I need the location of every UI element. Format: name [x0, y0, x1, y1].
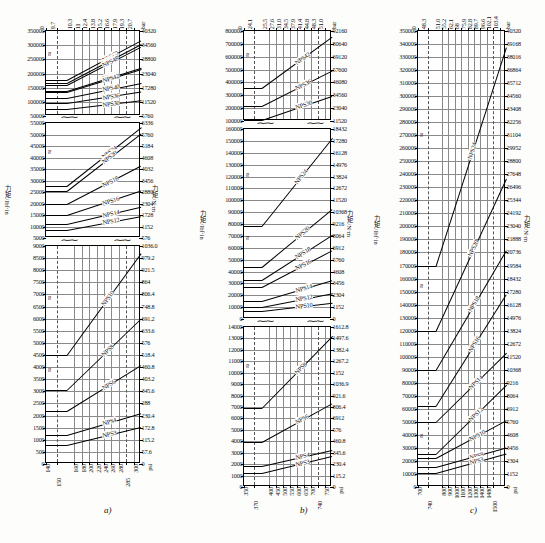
gridline-h: [46, 379, 139, 380]
y-tick-label: 110000: [225, 185, 242, 191]
gridline-v: [89, 246, 90, 462]
gridline-v: [119, 246, 120, 462]
y-tick-label: 600000: [225, 54, 242, 60]
y-tick-label: 5500: [33, 328, 45, 334]
y-tick-label: 25000: [30, 189, 44, 195]
x-tick-bottom-label: 700: [310, 487, 316, 496]
curve-flat-NPS20: [46, 191, 67, 192]
y2-tick-label: 80640: [333, 41, 347, 47]
curve-flat-NPS24: [418, 266, 436, 267]
y-tick-label: 3000: [231, 450, 243, 456]
y-tick-label: 230000: [399, 184, 416, 190]
x-tick-bottom-label: 450: [275, 487, 281, 496]
gridline-v: [428, 31, 429, 485]
x-tick-top-label: 19.3: [119, 19, 125, 29]
curve-flat-NPS14: [244, 301, 262, 302]
y2-tick-label: 13824: [507, 328, 521, 334]
gridline-h: [46, 282, 139, 283]
gridline-h: [244, 165, 330, 166]
curve-flat-NPS36: [46, 103, 67, 104]
x-tick-bottom-label: 1480: [486, 487, 492, 499]
gridline-h: [46, 258, 139, 259]
y-tick-label: 30000: [30, 177, 44, 183]
y-tick-label: 310000: [399, 80, 416, 86]
y-tick-label: 9000: [33, 243, 45, 249]
x-tick-top-label: 10.3: [67, 19, 73, 29]
y2-tick-label: 1382.4: [333, 347, 349, 353]
y2-tick-label: 0: [333, 316, 336, 322]
y-tick-label: 80000: [228, 221, 242, 227]
gridline-h: [244, 141, 330, 142]
curve-label-NPS10: NPS10: [100, 289, 116, 308]
gridline-v: [97, 31, 98, 114]
y-tick-label: 340000: [399, 41, 416, 47]
axis-break-mark: ≈: [45, 150, 53, 154]
curve-flat-NPS18: [244, 280, 262, 281]
y2-tick-label: 23040: [333, 105, 347, 111]
y-tick-label: 14000: [228, 324, 242, 330]
gridline-v: [283, 31, 284, 119]
gridline-v: [318, 31, 319, 119]
curve-flat-NPS42: [46, 92, 67, 93]
unit-label-bottom: psi: [338, 487, 344, 494]
y-tick-label: 60000: [228, 245, 242, 251]
y2-tick-label: 4608: [333, 268, 345, 274]
y2-tick-label: 12672: [333, 185, 347, 191]
y2-tick-label: 17280: [333, 138, 347, 144]
y-tick-label: 6500: [33, 303, 45, 309]
y-tick-label: 5000: [231, 427, 243, 433]
x-tick-top-label: 13.8: [89, 19, 95, 29]
axis-title-right: 力矩 /N·m: [345, 210, 354, 237]
x-tick-top-label: 48.3: [420, 19, 426, 29]
y2-tick-label: 345.6: [142, 388, 155, 394]
curve-flat-NPS24: [244, 226, 262, 227]
y-tick-label: 70000: [402, 393, 416, 399]
axis-break-mark: ≈: [243, 235, 251, 239]
axis-title-left-c: 力矩 /lbf·in: [372, 215, 381, 245]
y-tick-label: 200000: [225, 105, 242, 111]
y2-tick-label: 5760: [333, 257, 345, 263]
x-tick-bottom: [318, 485, 319, 488]
y-tick-label: 120000: [399, 328, 416, 334]
y2-tick-label: 38016: [507, 54, 521, 60]
axis-break-mark: ≈: [243, 53, 251, 57]
y2-tick-label: 5184: [142, 143, 154, 149]
y-tick-label: 130000: [399, 315, 416, 321]
curve-flat-NPS3: [46, 445, 67, 446]
gridline-h: [244, 153, 330, 154]
curve-flat-NPS10: [418, 458, 436, 459]
panel-letter-c: c): [470, 505, 477, 515]
y2-tick-label: 1036.9: [333, 381, 349, 387]
y2-tick-label: 39168: [507, 41, 521, 47]
gridline-v: [448, 31, 449, 485]
gridline-h: [46, 416, 139, 417]
y-tick-label: 330000: [399, 54, 416, 60]
y-tick-label: 45000: [30, 143, 44, 149]
curve-flat-NPS54: [46, 83, 67, 84]
gridline-h: [46, 343, 139, 344]
panel-break-mark: ⁓⁓: [61, 236, 77, 245]
y2-tick-label: 16128: [333, 150, 347, 156]
gridline-h: [46, 88, 139, 89]
gridline-h: [244, 212, 330, 213]
y-tick-label: 5000: [33, 235, 45, 241]
y-tick-label: 4000: [33, 364, 45, 370]
y2-tick-label: 979.2: [142, 255, 155, 261]
y-tick-label: 7000: [33, 291, 45, 297]
y-tick-label: 1000: [231, 472, 243, 478]
x-tick-bottom: [493, 485, 494, 488]
y2-tick-label: 16128: [507, 301, 521, 307]
y2-tick-label: 36864: [507, 67, 521, 73]
curve-label-NPS10: NPS10: [295, 301, 314, 310]
y-tick-label: 10000: [30, 223, 44, 229]
y-tick-label: 8000: [33, 267, 45, 273]
curve-flat-NPS14: [418, 422, 436, 423]
curve-flat-NPS14: [46, 224, 67, 225]
y-tick-label: 300000: [225, 92, 242, 98]
y-tick-label: 110000: [399, 341, 416, 347]
x-tick-bottom-label: 200: [88, 464, 94, 473]
x-tick-top: [46, 28, 47, 31]
gridline-h: [46, 294, 139, 295]
curve-flat-NPS42: [244, 88, 262, 89]
x-tick-bottom-label: 150: [56, 478, 62, 487]
